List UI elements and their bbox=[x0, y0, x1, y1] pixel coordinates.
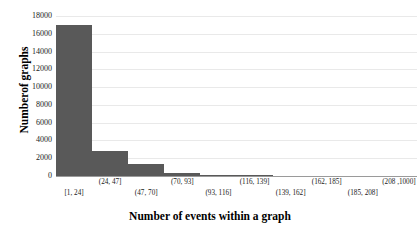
x-axis-title: Number of events within a graph bbox=[0, 210, 420, 222]
y-axis-tick-label: 8000 bbox=[0, 100, 52, 109]
plot-area bbox=[56, 16, 417, 177]
y-axis-tick-label: 4000 bbox=[0, 135, 52, 144]
x-axis-tick-label: (162, 185] bbox=[312, 178, 342, 186]
y-axis-tick-label: 10000 bbox=[0, 82, 52, 91]
y-axis-tick-label: 0 bbox=[0, 171, 52, 180]
bar-series bbox=[56, 16, 417, 176]
x-axis-tick-label: (70, 93] bbox=[171, 178, 194, 186]
x-axis-tick-label: [1, 24] bbox=[64, 189, 83, 197]
histogram-chart: Numberof graphs 180001600014000120001000… bbox=[0, 0, 420, 242]
x-axis-tick-labels: [1, 24](24, 47](47, 70](70, 93](93, 116]… bbox=[56, 178, 417, 206]
x-axis-tick-label: (208 ,1000] bbox=[382, 178, 416, 186]
bar bbox=[56, 25, 92, 176]
y-axis-tick-label: 2000 bbox=[0, 153, 52, 162]
y-axis-tick-label: 16000 bbox=[0, 29, 52, 38]
y-axis-tick-label: 6000 bbox=[0, 118, 52, 127]
y-axis-tick-label: 14000 bbox=[0, 47, 52, 56]
x-axis-tick-label: (139, 162] bbox=[276, 189, 306, 197]
x-axis-tick-label: (93, 116] bbox=[205, 189, 231, 197]
x-axis-tick-label: (47, 70] bbox=[135, 189, 158, 197]
y-axis-tick-label: 18000 bbox=[0, 11, 52, 20]
x-axis-tick-label: (116, 139] bbox=[240, 178, 270, 186]
bar bbox=[92, 151, 128, 176]
x-axis-tick-label: (24, 47] bbox=[99, 178, 122, 186]
bar bbox=[128, 164, 164, 176]
x-axis-tick-label: (185, 208] bbox=[348, 189, 378, 197]
x-axis-line bbox=[56, 176, 417, 177]
y-axis-tick-label: 12000 bbox=[0, 64, 52, 73]
